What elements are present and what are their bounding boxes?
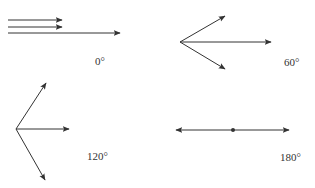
label-0deg: 0° <box>95 55 105 67</box>
center-dot-icon <box>231 128 235 132</box>
arrow-icon <box>16 83 46 129</box>
panel-60deg-arrows <box>180 16 271 69</box>
label-60deg: 60° <box>284 56 299 68</box>
panel-0deg-arrows <box>8 20 120 33</box>
panel-120deg-arrows <box>16 83 69 180</box>
label-180deg: 180° <box>280 151 301 163</box>
vector-diagram <box>0 0 315 188</box>
panel-180deg-arrows <box>176 128 289 132</box>
label-120deg: 120° <box>87 150 108 162</box>
arrow-icon <box>16 129 45 180</box>
arrow-icon <box>180 42 225 69</box>
arrow-icon <box>180 16 225 42</box>
